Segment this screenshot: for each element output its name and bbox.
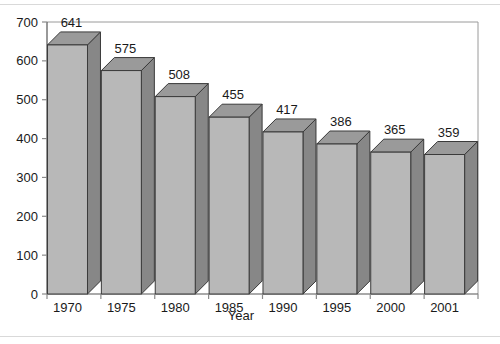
bar-value-label: 508 bbox=[168, 67, 190, 82]
y-axis: 0100200300400500600700 bbox=[16, 15, 47, 302]
bar-value-label: 359 bbox=[438, 125, 460, 140]
y-tick-label: 0 bbox=[31, 287, 38, 302]
y-tick-label: 200 bbox=[16, 209, 38, 224]
x-tick-label: 2000 bbox=[376, 300, 405, 315]
bar-column bbox=[263, 119, 316, 294]
bar-front-face bbox=[209, 117, 249, 294]
y-tick-label: 100 bbox=[16, 248, 38, 263]
y-tick-label: 600 bbox=[16, 53, 38, 68]
bar-value-label: 365 bbox=[384, 122, 406, 137]
bar-side-face bbox=[141, 58, 154, 294]
bar-side-face bbox=[357, 131, 370, 294]
bar-value-label: 641 bbox=[61, 15, 83, 30]
x-tick-label: 1970 bbox=[53, 300, 82, 315]
x-tick-label: 2001 bbox=[430, 300, 459, 315]
bar-value-label: 386 bbox=[330, 114, 352, 129]
chart-canvas: 0100200300400500600700 64157550845541738… bbox=[0, 0, 500, 344]
chart-page: 0100200300400500600700 64157550845541738… bbox=[0, 0, 500, 344]
bar-value-label: 417 bbox=[276, 102, 298, 117]
bar-side-face bbox=[195, 84, 208, 294]
x-tick-label: 1990 bbox=[269, 300, 298, 315]
bar-front-face bbox=[371, 152, 411, 294]
y-tick-label: 700 bbox=[16, 15, 38, 30]
bar-value-label: 455 bbox=[222, 87, 244, 102]
x-tick-label: 1975 bbox=[107, 300, 136, 315]
bar-side-face bbox=[465, 142, 478, 294]
x-axis-title: Year bbox=[228, 308, 255, 323]
bars-group: 641575508455417386365359 bbox=[47, 15, 477, 294]
bar-column bbox=[101, 58, 154, 294]
bar-side-face bbox=[87, 32, 100, 294]
bar-front-face bbox=[263, 132, 303, 294]
bar-side-face bbox=[303, 119, 316, 294]
bar-front-face bbox=[425, 155, 465, 294]
bar-column bbox=[155, 84, 208, 294]
x-axis: 19701975198019851990199520002001 bbox=[47, 294, 478, 315]
bar-column bbox=[209, 104, 262, 294]
x-tick-label: 1995 bbox=[322, 300, 351, 315]
bar-front-face bbox=[155, 97, 195, 294]
bar-column bbox=[317, 131, 370, 294]
bar-side-face bbox=[411, 139, 424, 294]
y-tick-label: 500 bbox=[16, 92, 38, 107]
bar-front-face bbox=[47, 45, 87, 294]
y-tick-label: 300 bbox=[16, 170, 38, 185]
bar-side-face bbox=[249, 104, 262, 294]
bar-column bbox=[371, 139, 424, 294]
bar-front-face bbox=[317, 144, 357, 294]
bar-chart: 0100200300400500600700 64157550845541738… bbox=[0, 0, 500, 344]
bar-column bbox=[47, 32, 100, 294]
y-tick-label: 400 bbox=[16, 131, 38, 146]
bar-value-label: 575 bbox=[115, 41, 137, 56]
bar-column bbox=[425, 142, 478, 294]
x-tick-label: 1980 bbox=[161, 300, 190, 315]
bar-front-face bbox=[101, 71, 141, 294]
